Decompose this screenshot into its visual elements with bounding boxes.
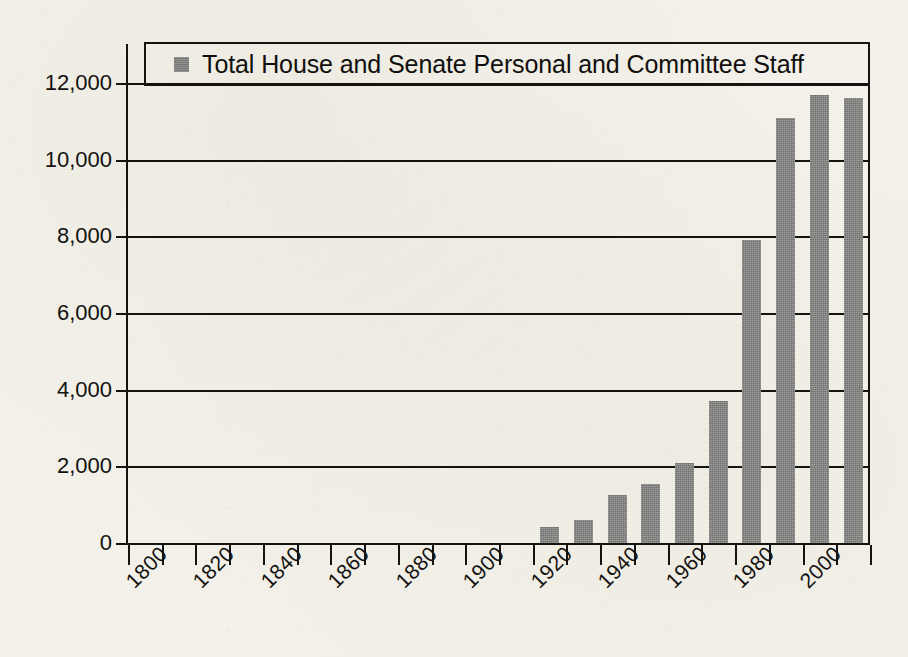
x-axis-tick (870, 545, 872, 565)
plot-area (128, 83, 870, 543)
bar (709, 401, 728, 543)
x-axis-tick (128, 545, 130, 565)
y-axis-tick-label: 10,000 (0, 147, 112, 173)
y-axis-tick-label: 2,000 (0, 453, 112, 479)
y-axis-tick-label: 8,000 (0, 223, 112, 249)
y-axis-tick (116, 313, 128, 315)
bar (742, 240, 761, 543)
bar (540, 527, 559, 543)
x-axis-tick (195, 545, 197, 565)
y-axis-tick (116, 466, 128, 468)
x-axis-tick (263, 545, 265, 565)
bar (810, 95, 829, 544)
x-axis-tick (600, 545, 602, 565)
bar (776, 118, 795, 544)
x-axis-tick (330, 545, 332, 565)
x-axis-tick-labels: 1800182018401860188019001920194019601980… (0, 576, 908, 656)
bar (641, 484, 660, 543)
bar (574, 520, 593, 543)
y-axis-tick (116, 83, 128, 85)
gridline (128, 160, 870, 162)
y-axis-tick-label: 12,000 (0, 70, 112, 96)
x-axis-tick (465, 545, 467, 565)
gridline (128, 236, 870, 238)
x-axis-tick (398, 545, 400, 565)
bar (675, 463, 694, 544)
y-axis-tick (116, 236, 128, 238)
legend-label: Total House and Senate Personal and Comm… (202, 50, 804, 79)
x-axis-tick (533, 545, 535, 565)
bar (608, 495, 627, 543)
legend-swatch-icon (174, 57, 189, 72)
chart-legend: Total House and Senate Personal and Comm… (144, 42, 870, 86)
x-axis-tick (668, 545, 670, 565)
y-axis-tick-label: 6,000 (0, 300, 112, 326)
bar (844, 98, 863, 543)
y-axis-tick-label: 4,000 (0, 377, 112, 403)
x-axis-tick (803, 545, 805, 565)
y-axis-tick (116, 160, 128, 162)
x-axis-tick (735, 545, 737, 565)
y-axis-tick (116, 390, 128, 392)
